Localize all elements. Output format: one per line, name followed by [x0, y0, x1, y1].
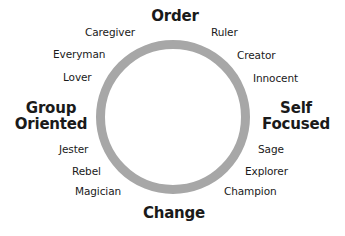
archetype-sage: Sage	[258, 143, 284, 156]
archetype-explorer: Explorer	[245, 165, 288, 178]
archetype-champion: Champion	[224, 185, 277, 198]
archetype-magician: Magician	[75, 185, 121, 198]
archetype-everyman: Everyman	[53, 48, 105, 61]
archetype-caregiver: Caregiver	[85, 26, 135, 39]
archetype-creator: Creator	[237, 49, 275, 62]
archetype-jester: Jester	[59, 143, 88, 156]
axis-label-change: Change	[140, 205, 208, 221]
central-ring	[96, 40, 250, 194]
archetype-lover: Lover	[63, 71, 92, 84]
archetype-ruler: Ruler	[211, 26, 238, 39]
archetype-rebel: Rebel	[72, 165, 101, 178]
axis-label-self-line2: Focused	[260, 117, 332, 133]
axis-label-group-oriented: Group Oriented	[12, 101, 90, 132]
axis-label-group-line2: Oriented	[12, 117, 90, 133]
axis-label-order: Order	[150, 8, 200, 24]
axis-label-self-focused: Self Focused	[260, 101, 332, 132]
archetype-innocent: Innocent	[253, 72, 298, 85]
